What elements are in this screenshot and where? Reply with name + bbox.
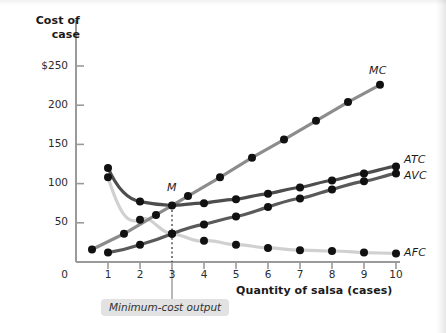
y-tick-label-50: 50 xyxy=(24,215,68,227)
atc-curve-label: ATC xyxy=(404,153,426,166)
y-tick-label-100: 100 xyxy=(24,176,68,188)
minimum-cost-point-label: M xyxy=(167,181,177,194)
y-tick-label-0: 0 xyxy=(24,268,68,280)
x-tick-label-9: 9 xyxy=(354,268,374,280)
cost-curves-figure: Cost of case Quantity of salsa (cases) $… xyxy=(0,0,446,333)
atc-curve xyxy=(108,166,396,205)
x-tick-label-6: 6 xyxy=(258,268,278,280)
afc-curve-label: AFC xyxy=(404,246,426,259)
x-tick-label-7: 7 xyxy=(290,268,310,280)
x-tick-label-10: 10 xyxy=(386,268,406,280)
y-axis-ticks xyxy=(76,66,84,223)
x-tick-label-5: 5 xyxy=(226,268,246,280)
y-tick-label-250: $250 xyxy=(24,59,68,71)
x-tick-label-3: 3 xyxy=(162,268,182,280)
x-tick-label-8: 8 xyxy=(322,268,342,280)
minimum-cost-output-callout: Minimum-cost output xyxy=(101,299,229,316)
x-axis-ticks xyxy=(108,262,396,269)
x-tick-label-2: 2 xyxy=(130,268,150,280)
y-axis-title-line1: Cost of xyxy=(18,14,80,28)
x-tick-label-1: 1 xyxy=(98,268,118,280)
avc-curve xyxy=(108,173,396,252)
y-axis-title: Cost of case xyxy=(18,14,80,42)
x-tick-label-4: 4 xyxy=(194,268,214,280)
y-tick-label-200: 200 xyxy=(24,98,68,110)
mc-curve-label: MC xyxy=(369,64,387,77)
x-axis-title: Quantity of salsa (cases) xyxy=(236,284,393,297)
y-tick-label-150: 150 xyxy=(24,137,68,149)
mc-curve xyxy=(92,85,380,250)
avc-curve-label: AVC xyxy=(404,169,427,182)
y-axis-title-line2: case xyxy=(18,28,80,42)
